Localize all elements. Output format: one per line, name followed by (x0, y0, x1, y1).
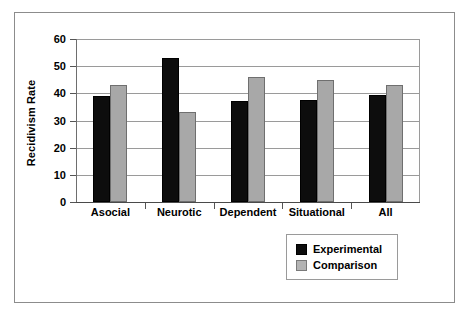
plot-right-border (419, 39, 420, 203)
y-axis-tick-label: 10 (42, 169, 66, 181)
x-axis-tick (351, 203, 352, 209)
bar-dependent-experimental (231, 101, 248, 202)
bar-all-experimental (369, 95, 386, 202)
x-axis-line (76, 202, 420, 203)
bar-situational-comparison (317, 80, 334, 202)
y-axis-tick-label: 50 (42, 60, 66, 72)
x-axis-label-neurotic: Neurotic (157, 206, 202, 218)
y-axis-tick-label: 60 (42, 33, 66, 45)
y-axis-tick-label: 30 (42, 115, 66, 127)
bar-situational-experimental (300, 100, 317, 202)
y-axis-tick-label: 0 (42, 196, 66, 208)
legend-label-experimental: Experimental (313, 243, 382, 255)
legend-item-experimental: Experimental (296, 241, 389, 257)
y-axis-title-label: Recidivism Rate (25, 80, 37, 166)
y-axis-line (76, 39, 77, 203)
bar-neurotic-experimental (162, 58, 179, 202)
y-axis-tick-labels: 0102030405060 (38, 0, 66, 319)
x-axis-label-dependent: Dependent (220, 206, 277, 218)
y-axis-tick-label: 20 (42, 142, 66, 154)
bar-asocial-comparison (110, 85, 127, 202)
legend-label-comparison: Comparison (313, 259, 377, 271)
x-axis-tick (214, 203, 215, 209)
bar-neurotic-comparison (179, 112, 196, 202)
gridline (76, 39, 420, 40)
bar-all-comparison (386, 85, 403, 202)
bar-asocial-experimental (93, 96, 110, 202)
gridline (76, 66, 420, 67)
legend-swatch-gray-square (296, 260, 307, 271)
x-axis-label-all: All (379, 206, 393, 218)
chart-legend: Experimental Comparison (286, 234, 398, 280)
y-axis-tick-label: 40 (42, 87, 66, 99)
bar-dependent-comparison (248, 77, 265, 202)
x-axis-label-asocial: Asocial (91, 206, 130, 218)
x-axis-label-situational: Situational (289, 206, 345, 218)
legend-swatch-black-square (296, 244, 307, 255)
legend-item-comparison: Comparison (296, 257, 389, 273)
x-axis-tick (282, 203, 283, 209)
x-axis-tick (145, 203, 146, 209)
